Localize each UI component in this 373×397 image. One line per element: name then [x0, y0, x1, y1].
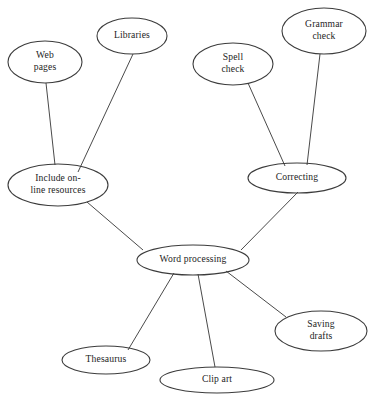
nodes-layer: WebpagesLibrariesSpellcheckGrammarcheckI… — [8, 8, 367, 393]
edge-grammar-check--correcting — [307, 54, 320, 165]
node-label-include-online-resources: Include on-line resources — [30, 172, 85, 195]
node-label-line: Libraries — [114, 29, 150, 40]
node-label-line: Spell — [223, 51, 244, 62]
node-label-line: Include on- — [35, 172, 81, 183]
node-label-clip-art: Clip art — [202, 373, 232, 384]
node-include-online-resources[interactable]: Include on-line resources — [8, 164, 108, 206]
node-web-pages[interactable]: Webpages — [8, 41, 82, 83]
node-label-line: check — [312, 30, 335, 41]
node-label-grammar-check: Grammarcheck — [305, 18, 343, 41]
node-label-line: drafts — [310, 330, 333, 341]
node-label-line: Grammar — [305, 18, 343, 29]
node-word-processing[interactable]: Word processing — [137, 245, 249, 275]
edge-word-processing--saving-drafts — [226, 271, 286, 317]
node-label-saving-drafts: Savingdrafts — [307, 318, 335, 341]
node-label-line: check — [221, 63, 244, 74]
node-label-line: Correcting — [276, 171, 319, 182]
edges-layer — [46, 54, 320, 367]
node-label-libraries: Libraries — [114, 29, 150, 40]
node-label-line: Clip art — [202, 373, 232, 384]
node-label-correcting: Correcting — [276, 171, 319, 182]
edge-libraries--include — [78, 54, 133, 172]
node-clip-art[interactable]: Clip art — [160, 367, 274, 393]
diagram-canvas: WebpagesLibrariesSpellcheckGrammarcheckI… — [0, 0, 373, 397]
node-libraries[interactable]: Libraries — [97, 18, 167, 54]
edge-include--word-processing — [87, 202, 143, 250]
edge-word-processing--clip-art — [198, 274, 215, 367]
node-label-line: Web — [36, 49, 54, 60]
edge-correcting--word-processing — [241, 192, 298, 250]
node-label-line: Saving — [307, 318, 335, 329]
node-label-web-pages: Webpages — [34, 49, 57, 72]
node-label-line: Word processing — [160, 253, 227, 264]
node-label-line: Thesaurus — [86, 353, 127, 364]
node-spell-check[interactable]: Spellcheck — [193, 43, 273, 85]
node-grammar-check[interactable]: Grammarcheck — [282, 8, 366, 54]
edge-word-processing--thesaurus — [128, 273, 174, 350]
node-saving-drafts[interactable]: Savingdrafts — [275, 311, 367, 351]
edge-web-pages--include — [46, 83, 55, 165]
node-label-thesaurus: Thesaurus — [86, 353, 127, 364]
node-label-line: line resources — [30, 184, 85, 195]
node-label-word-processing: Word processing — [160, 253, 227, 264]
concept-map-svg: WebpagesLibrariesSpellcheckGrammarcheckI… — [0, 0, 373, 397]
node-thesaurus[interactable]: Thesaurus — [62, 346, 150, 374]
node-label-line: pages — [34, 61, 57, 72]
edge-spell-check--correcting — [248, 83, 285, 166]
node-label-spell-check: Spellcheck — [221, 51, 244, 74]
node-correcting[interactable]: Correcting — [248, 163, 346, 193]
